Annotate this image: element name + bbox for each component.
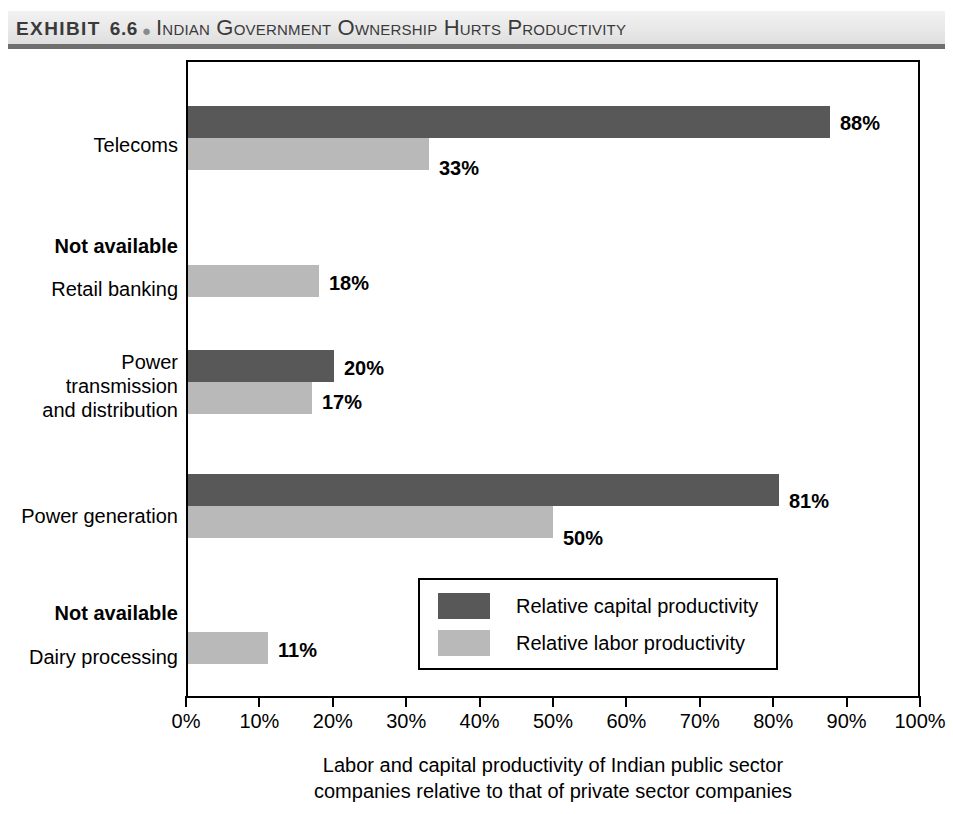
not-available-label-retail-banking: Not available bbox=[55, 235, 178, 258]
category-label-retail-banking: Retail banking bbox=[51, 277, 178, 301]
legend-swatch-labor-icon bbox=[438, 630, 490, 656]
x-axis-tick-mark bbox=[405, 696, 407, 707]
chart-legend: Relative capital productivity Relative l… bbox=[418, 578, 778, 670]
x-axis-tick-mark bbox=[479, 696, 481, 707]
legend-item-labor: Relative labor productivity bbox=[438, 630, 745, 656]
x-axis-tick-mark bbox=[625, 696, 627, 707]
x-axis-tick-mark bbox=[332, 696, 334, 707]
bar-value-power-generation-capital: 81% bbox=[789, 490, 829, 513]
bar-power-transmission-capital bbox=[188, 350, 334, 382]
bar-value-telecoms-capital: 88% bbox=[840, 112, 880, 135]
legend-swatch-capital-icon bbox=[438, 593, 490, 619]
category-label-telecoms: Telecoms bbox=[94, 133, 178, 157]
bar-telecoms-labor bbox=[188, 138, 429, 170]
x-axis-tick-label: 60% bbox=[606, 710, 646, 733]
bar-value-telecoms-labor: 33% bbox=[439, 157, 479, 180]
not-available-label-dairy-processing: Not available bbox=[55, 602, 178, 625]
category-label-power-transmission: Power transmission and distribution bbox=[42, 350, 178, 422]
bar-retail-banking-labor bbox=[188, 265, 319, 297]
legend-item-capital: Relative capital productivity bbox=[438, 593, 758, 619]
bar-power-transmission-labor bbox=[188, 382, 312, 414]
bar-value-retail-banking-labor: 18% bbox=[329, 272, 369, 295]
x-axis-tick-mark bbox=[699, 696, 701, 707]
title-underline-rule bbox=[8, 44, 945, 49]
category-label-dairy-processing: Dairy processing bbox=[29, 645, 178, 669]
x-axis-tick-label: 40% bbox=[460, 710, 500, 733]
bar-power-generation-capital bbox=[188, 474, 779, 506]
caption-line-2: companies relative to that of private se… bbox=[186, 778, 920, 804]
x-axis-tick-mark bbox=[258, 696, 260, 707]
x-axis-tick-label: 70% bbox=[680, 710, 720, 733]
x-axis-tick-label: 100% bbox=[894, 710, 945, 733]
x-axis-tick-label: 20% bbox=[313, 710, 353, 733]
x-axis-tick-mark bbox=[772, 696, 774, 707]
legend-label-capital: Relative capital productivity bbox=[516, 595, 758, 618]
bar-value-power-transmission-capital: 20% bbox=[344, 357, 384, 380]
x-axis-tick-label: 90% bbox=[827, 710, 867, 733]
category-label-power-generation: Power generation bbox=[21, 504, 178, 528]
bar-value-dairy-processing-labor: 11% bbox=[278, 639, 317, 662]
caption-line-1: Labor and capital productivity of Indian… bbox=[186, 752, 920, 778]
bullet-separator-icon: ● bbox=[138, 22, 156, 39]
bar-value-power-transmission-labor: 17% bbox=[322, 391, 362, 414]
x-axis-tick-mark bbox=[552, 696, 554, 707]
exhibit-label: EXHIBIT bbox=[16, 18, 101, 39]
chart-caption: Labor and capital productivity of Indian… bbox=[186, 752, 920, 804]
x-axis-tick-label: 80% bbox=[753, 710, 793, 733]
exhibit-page: EXHIBIT6.6●Indian Government Ownership H… bbox=[0, 0, 953, 814]
x-axis-tick-mark bbox=[846, 696, 848, 707]
legend-label-labor: Relative labor productivity bbox=[516, 632, 745, 655]
bar-dairy-processing-labor bbox=[188, 632, 268, 664]
x-axis-tick-label: 10% bbox=[239, 710, 279, 733]
bar-value-power-generation-labor: 50% bbox=[563, 527, 603, 550]
exhibit-title: Indian Government Ownership Hurts Produc… bbox=[156, 15, 626, 40]
bar-telecoms-capital bbox=[188, 106, 830, 138]
x-axis-tick-label: 50% bbox=[533, 710, 573, 733]
x-axis-tick-mark bbox=[185, 696, 187, 707]
exhibit-title-banner: EXHIBIT6.6●Indian Government Ownership H… bbox=[8, 11, 945, 44]
exhibit-number: 6.6 bbox=[110, 18, 138, 39]
x-axis-tick-label: 0% bbox=[172, 710, 201, 733]
exhibit-title-text: EXHIBIT6.6●Indian Government Ownership H… bbox=[8, 17, 626, 39]
x-axis-tick-label: 30% bbox=[386, 710, 426, 733]
x-axis-tick-mark bbox=[919, 696, 921, 707]
bar-power-generation-labor bbox=[188, 506, 553, 538]
